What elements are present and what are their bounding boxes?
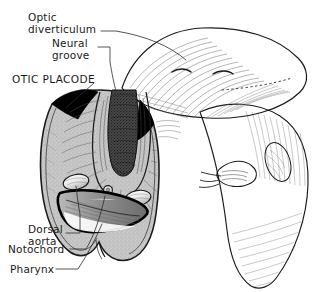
label-optic-diverticulum-line1: Optic <box>28 11 57 23</box>
label-notochord: Notochord <box>8 243 64 255</box>
label-optic-diverticulum-line2: diverticulum <box>28 23 96 35</box>
label-dorsal-aorta-line1: Dorsal <box>28 223 63 235</box>
label-pharynx-line1: Pharynx <box>10 263 54 275</box>
illustration-canvas: Optic diverticulum Neural groove OTIC PL… <box>0 0 317 292</box>
neural-groove-lumen <box>108 90 138 176</box>
label-otic-placode: OTIC PLACODE <box>12 73 95 85</box>
label-otic-placode-line1: OTIC PLACODE <box>12 73 95 85</box>
label-pharynx: Pharynx <box>10 263 54 275</box>
label-neural-groove-line1: Neural <box>52 37 88 49</box>
embryo-cross-section-figure: Optic diverticulum Neural groove OTIC PL… <box>0 0 317 292</box>
label-notochord-line1: Notochord <box>8 243 64 255</box>
label-neural-groove-line2: groove <box>52 49 89 61</box>
label-neural-groove: Neural groove <box>52 37 91 61</box>
